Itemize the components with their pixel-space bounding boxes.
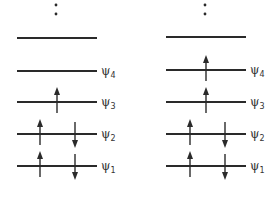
continuation-dot (204, 4, 207, 7)
level-label-psi4: ψ4 (250, 63, 265, 79)
left-configuration: ψ4 ψ3 ψ2 ψ1 (17, 4, 116, 180)
spin-up-arrow-icon (54, 87, 60, 113)
spin-up-arrow-icon (37, 151, 43, 177)
right-configuration: ψ4 ψ3 ψ2 ψ1 (166, 4, 265, 180)
spin-up-arrow-icon (37, 119, 43, 145)
continuation-dot (55, 13, 58, 16)
continuation-dot (55, 4, 58, 7)
level-label-psi2: ψ2 (101, 127, 116, 143)
level-label-psi1: ψ1 (250, 159, 265, 175)
spin-up-arrow-icon (187, 151, 193, 177)
level-label-psi1: ψ1 (101, 159, 116, 175)
mo-diagram: ψ4 ψ3 ψ2 ψ1 (0, 0, 279, 197)
spin-up-arrow-icon (203, 87, 209, 113)
level-label-psi2: ψ2 (250, 127, 265, 143)
level-label-psi4: ψ4 (101, 64, 116, 80)
continuation-dot (204, 13, 207, 16)
level-label-psi3: ψ3 (101, 95, 116, 111)
level-label-psi3: ψ3 (250, 95, 265, 111)
spin-up-arrow-icon (187, 119, 193, 145)
spin-up-arrow-icon (203, 55, 209, 81)
